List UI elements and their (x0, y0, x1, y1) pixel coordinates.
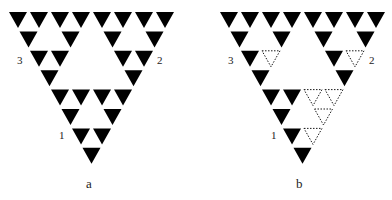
filled-triangle (93, 12, 111, 28)
filled-triangle (93, 128, 111, 144)
filled-triangle (125, 70, 143, 86)
filled-triangle (51, 12, 69, 28)
panel-b-label-1: 1 (271, 130, 277, 141)
filled-triangle (241, 12, 259, 28)
filled-triangle (51, 51, 69, 67)
dashed-triangle (304, 90, 322, 106)
filled-triangle (357, 31, 375, 47)
filled-triangle (315, 31, 333, 47)
filled-triangle (62, 31, 80, 47)
filled-triangle (41, 70, 59, 86)
filled-triangle (283, 128, 301, 144)
filled-triangle (241, 51, 259, 67)
filled-triangle (262, 12, 280, 28)
panel-b-label-3: 3 (228, 55, 234, 66)
panel-a-label-3: 3 (17, 55, 23, 66)
dashed-triangle (304, 128, 322, 144)
filled-triangle (20, 31, 38, 47)
filled-triangle (30, 51, 48, 67)
filled-triangle (325, 12, 343, 28)
filled-triangle (146, 31, 164, 47)
filled-triangle (304, 12, 322, 28)
panel-a-label-1: 1 (59, 130, 65, 141)
dashed-triangle (325, 90, 343, 106)
sierpinski-figure: 3 2 1 a 3 2 1 b (0, 0, 392, 200)
triangle-canvas (0, 0, 392, 200)
filled-triangle (72, 128, 90, 144)
filled-triangle (294, 148, 312, 164)
filled-triangle (231, 31, 249, 47)
filled-triangle (83, 148, 101, 164)
filled-triangle (135, 12, 153, 28)
dashed-triangle (262, 51, 280, 67)
filled-triangle (93, 90, 111, 106)
filled-triangle (346, 12, 364, 28)
filled-triangle (114, 90, 132, 106)
filled-triangle (114, 51, 132, 67)
filled-triangle (51, 90, 69, 106)
panel-b-label-2: 2 (369, 55, 375, 66)
filled-triangle (273, 109, 291, 125)
filled-triangle (367, 12, 385, 28)
filled-triangle (252, 70, 270, 86)
panel-a-caption: a (86, 177, 92, 190)
filled-triangle (104, 109, 122, 125)
dashed-triangle (346, 51, 364, 67)
filled-triangle (220, 12, 238, 28)
filled-triangle (114, 12, 132, 28)
filled-triangle (283, 90, 301, 106)
filled-triangle (336, 70, 354, 86)
filled-triangle (9, 12, 27, 28)
filled-triangle (283, 12, 301, 28)
dashed-triangle (315, 109, 333, 125)
filled-triangle (62, 109, 80, 125)
filled-triangle (135, 51, 153, 67)
panel-b-caption: b (296, 177, 303, 190)
filled-triangle (72, 90, 90, 106)
filled-triangle (156, 12, 174, 28)
filled-triangle (104, 31, 122, 47)
filled-triangle (262, 90, 280, 106)
filled-triangle (72, 12, 90, 28)
filled-triangle (273, 31, 291, 47)
panel-a-label-2: 2 (157, 55, 163, 66)
filled-triangle (30, 12, 48, 28)
filled-triangle (325, 51, 343, 67)
